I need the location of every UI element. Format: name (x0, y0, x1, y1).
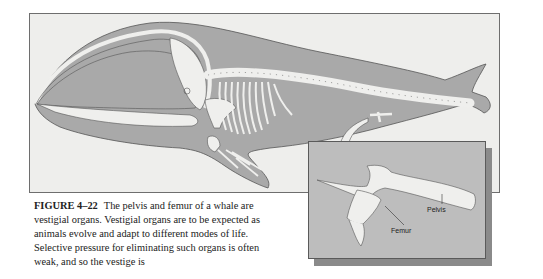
pelvis-femur-drawing (309, 142, 487, 260)
femur-label: Femur (391, 227, 411, 234)
figure-caption: FIGURE 4–22The pelvis and femur of a wha… (34, 199, 284, 269)
femur-leader-line (385, 206, 404, 225)
pelvis-bone (317, 165, 475, 210)
pelvis-label: Pelvis (427, 206, 446, 213)
figure-number: FIGURE 4–22 (34, 200, 98, 211)
pelvis-femur-inset: Pelvis Femur (308, 141, 486, 259)
femur-bone (347, 190, 381, 224)
